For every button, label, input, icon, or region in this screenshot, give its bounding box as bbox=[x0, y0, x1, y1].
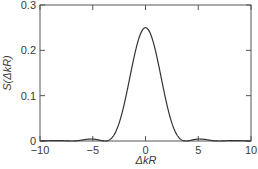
x-tick-label: 10 bbox=[245, 144, 257, 156]
chart-canvas: −10−5051000.10.20.3 ΔkR S(ΔkR) bbox=[0, 0, 258, 169]
y-tick-label: 0 bbox=[30, 135, 36, 147]
tick-labels: −10−5051000.10.20.3 bbox=[21, 0, 257, 156]
x-tick-label: 5 bbox=[195, 144, 201, 156]
y-tick-label: 0.1 bbox=[21, 90, 36, 102]
y-tick-label: 0.3 bbox=[21, 0, 36, 11]
data-curve bbox=[40, 28, 251, 141]
axis-ticks bbox=[40, 5, 251, 141]
x-tick-label: −5 bbox=[86, 144, 99, 156]
y-tick-label: 0.2 bbox=[21, 44, 36, 56]
plot-frame bbox=[40, 5, 251, 141]
y-axis-label: S(ΔkR) bbox=[1, 55, 13, 91]
x-axis-label: ΔkR bbox=[135, 154, 157, 166]
